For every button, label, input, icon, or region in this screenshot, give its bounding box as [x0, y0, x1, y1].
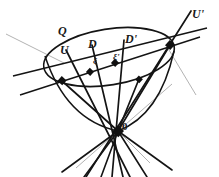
- generator-segment-left-node: [62, 81, 118, 131]
- label-point-xi-prime: ξ': [113, 53, 120, 62]
- label-generator-u-prime: U': [192, 8, 204, 20]
- faint-line-apex-lower-right: [118, 131, 150, 163]
- label-generator-u: U: [60, 44, 69, 56]
- faint-line-right: [166, 45, 196, 95]
- label-point-xi: ξ: [93, 57, 97, 66]
- node-xi: [86, 68, 94, 76]
- label-quadric-q: Q: [58, 25, 67, 37]
- label-generator-d-prime: D': [125, 33, 137, 45]
- lower-ray-5: [118, 131, 172, 170]
- cone-diagram-canvas: [0, 0, 219, 177]
- lower-ray-4: [118, 131, 147, 177]
- label-apex-origin: 0: [122, 121, 128, 132]
- label-generator-d: D: [88, 38, 97, 50]
